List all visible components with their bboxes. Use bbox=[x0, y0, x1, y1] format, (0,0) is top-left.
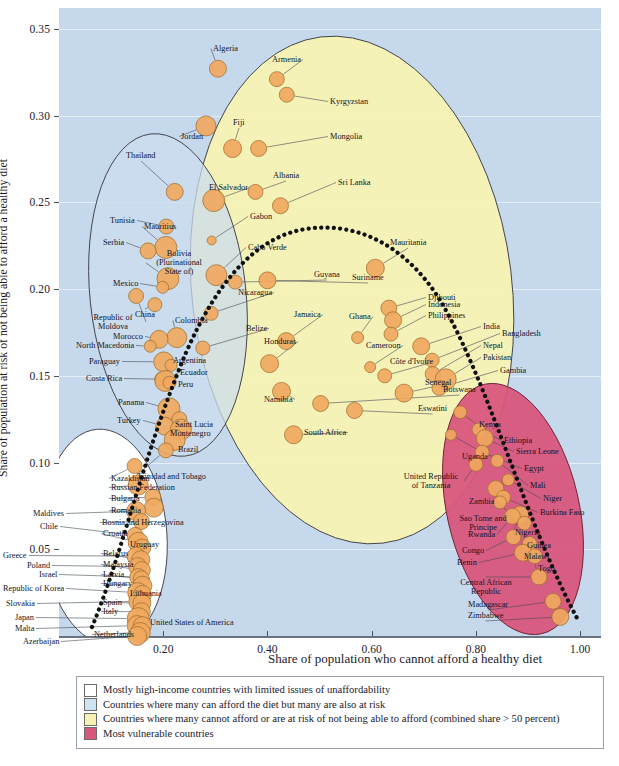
point-label: Hungary bbox=[103, 579, 132, 588]
point-label: Ghana bbox=[349, 312, 371, 321]
legend-swatch-pink bbox=[84, 727, 97, 740]
point-label: Gabon bbox=[250, 212, 272, 221]
point-label: Kazakhstan bbox=[111, 474, 150, 483]
point-label: India bbox=[483, 322, 500, 331]
point-label: Tunisia bbox=[110, 216, 135, 225]
point-label: Azerbaijan bbox=[23, 637, 59, 646]
gridline bbox=[59, 463, 601, 464]
point-label: Israel bbox=[39, 570, 57, 579]
x-axis-label: Share of population who cannot afford a … bbox=[268, 651, 542, 667]
point-label: Zambia bbox=[469, 497, 494, 506]
point-label: Turkey bbox=[117, 416, 141, 425]
point-label: Botswana bbox=[443, 385, 476, 394]
point-label: Madagascar bbox=[468, 600, 508, 609]
y-tick bbox=[54, 376, 59, 377]
y-tick bbox=[54, 116, 59, 117]
point-label: Malta bbox=[15, 624, 34, 633]
point-label: Egypt bbox=[524, 464, 544, 473]
gridline bbox=[59, 202, 601, 203]
point-label: Bulgaria bbox=[111, 494, 140, 503]
point-label: Guyana bbox=[314, 270, 340, 279]
point-label: Argentina bbox=[173, 356, 206, 365]
point-label: Bangladesh bbox=[502, 329, 541, 338]
x-tick bbox=[476, 631, 477, 636]
point-label: Belize bbox=[246, 324, 267, 333]
y-tick-label: 0.35 bbox=[29, 23, 50, 35]
y-tick bbox=[54, 289, 59, 290]
point-label: Romania bbox=[111, 506, 141, 515]
point-label: Serbia bbox=[103, 238, 124, 247]
chart-root: 0.050.100.150.200.250.300.35 0.200.400.6… bbox=[0, 0, 619, 766]
point-label: United Republic of Tanzania bbox=[400, 472, 462, 490]
y-tick-label: 0.15 bbox=[29, 370, 50, 382]
point-label: Japan bbox=[15, 613, 34, 622]
y-tick bbox=[54, 549, 59, 550]
point-label: El Salvador bbox=[209, 183, 248, 192]
gridline bbox=[59, 549, 601, 550]
point-label: Mali bbox=[530, 481, 546, 490]
point-label: Ecuador bbox=[180, 368, 208, 377]
point-label: Mauritania bbox=[390, 238, 426, 247]
point-label: Philippines bbox=[428, 311, 465, 320]
point-label: Costa Rica bbox=[86, 374, 122, 383]
point-label: Central African Republic bbox=[455, 578, 517, 596]
point-label: Latvia bbox=[103, 570, 124, 579]
x-axis-line bbox=[59, 636, 601, 638]
gridline bbox=[59, 116, 601, 117]
point-label: Mexico bbox=[113, 279, 138, 288]
y-tick-label: 0.20 bbox=[29, 283, 50, 295]
point-label: Mauritius bbox=[144, 222, 176, 231]
point-label: Gambia bbox=[500, 366, 526, 375]
point-label: Malaysia bbox=[103, 560, 133, 569]
point-label: Indonesia bbox=[428, 300, 460, 309]
point-label: Morocco bbox=[113, 332, 143, 341]
legend-label: Countries where many cannot afford or ar… bbox=[103, 713, 560, 725]
x-tick bbox=[580, 631, 581, 636]
point-label: Poland bbox=[27, 561, 50, 570]
point-label: Sierra Leone bbox=[516, 447, 559, 456]
point-label: Uganda bbox=[462, 452, 488, 461]
point-label: Belarus bbox=[103, 549, 128, 558]
x-tick bbox=[163, 631, 164, 636]
point-label: Russian Federation bbox=[111, 483, 175, 492]
point-label: Honduras bbox=[264, 337, 296, 346]
point-label: Burkina Faso bbox=[540, 508, 584, 517]
point-label: Côte d'Ivoire bbox=[390, 357, 433, 366]
point-label: Uruguay bbox=[130, 540, 159, 549]
point-label: Armenia bbox=[272, 55, 301, 64]
point-label: Brazil bbox=[178, 445, 198, 454]
point-label: Kenya bbox=[479, 420, 501, 429]
y-tick bbox=[54, 29, 59, 30]
point-label: Thailand bbox=[126, 151, 156, 160]
point-label: Panama bbox=[118, 398, 144, 407]
point-label: Sri Lanka bbox=[338, 178, 371, 187]
point-label: Congo bbox=[462, 546, 484, 555]
point-label: Croatia bbox=[103, 529, 127, 538]
legend-item: Countries where many can afford the diet… bbox=[84, 698, 596, 711]
y-tick-label: 0.05 bbox=[29, 543, 50, 555]
legend-swatch-blue bbox=[84, 698, 97, 711]
legend-label: Most vulnerable countries bbox=[103, 728, 214, 740]
gridline bbox=[59, 29, 601, 30]
point-label: Lithuania bbox=[130, 589, 162, 598]
x-tick bbox=[372, 631, 373, 636]
y-tick bbox=[54, 463, 59, 464]
point-label: Cameroon bbox=[366, 341, 401, 350]
point-label: Togo bbox=[538, 564, 555, 573]
legend: Mostly high-income countries with limite… bbox=[76, 676, 604, 749]
point-label: Albania bbox=[273, 171, 299, 180]
point-label: Niger bbox=[543, 494, 562, 503]
point-label: North Macedonia bbox=[76, 341, 134, 350]
point-label: Italy bbox=[103, 607, 118, 616]
point-label: Colombia bbox=[175, 316, 208, 325]
point-label: Nigeria bbox=[515, 528, 540, 537]
point-label: Suriname bbox=[352, 273, 384, 282]
y-axis-label: Share of population at risk of not being… bbox=[0, 159, 11, 477]
point-label: Chile bbox=[40, 522, 58, 531]
point-label: Jordan bbox=[181, 132, 203, 141]
point-label: Kyrgyzstan bbox=[330, 97, 368, 106]
point-label: Greece bbox=[3, 551, 27, 560]
x-tick-label: 1.00 bbox=[570, 643, 591, 655]
legend-item: Countries where many cannot afford or ar… bbox=[84, 713, 596, 726]
point-label: Nicaragua bbox=[238, 288, 272, 297]
